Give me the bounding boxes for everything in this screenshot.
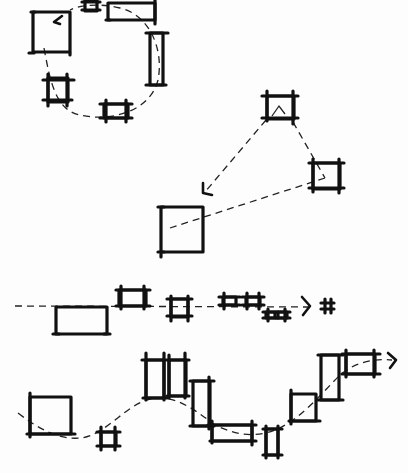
frame bbox=[29, 12, 70, 55]
circular-sequence bbox=[29, 0, 168, 122]
frame bbox=[53, 307, 110, 334]
frame bbox=[97, 427, 120, 450]
triangle-dashed-path-a bbox=[205, 120, 266, 192]
frame bbox=[208, 421, 256, 445]
frame bbox=[321, 299, 334, 313]
frame bbox=[100, 100, 132, 122]
triangular-sequence bbox=[158, 91, 344, 257]
wave-sequence bbox=[18, 350, 396, 458]
frame bbox=[167, 353, 189, 398]
triangle-dashed-path-c bbox=[170, 178, 325, 228]
sketch-canvas bbox=[0, 0, 408, 473]
frame bbox=[146, 33, 168, 85]
frame bbox=[27, 393, 75, 437]
frame bbox=[116, 286, 150, 309]
frame bbox=[318, 355, 343, 400]
arrowhead-icon bbox=[302, 297, 310, 315]
frame bbox=[219, 293, 240, 309]
triangle-dashed-path-b bbox=[293, 122, 325, 178]
arrowhead-icon bbox=[54, 16, 62, 24]
frame bbox=[43, 74, 74, 106]
frame bbox=[158, 207, 203, 257]
frame bbox=[242, 293, 264, 309]
frame bbox=[276, 309, 290, 321]
sketch-drawing bbox=[0, 0, 408, 473]
frame bbox=[342, 350, 380, 377]
triangle-mark-icon bbox=[272, 106, 285, 116]
arrowhead-icon bbox=[388, 353, 396, 368]
frame bbox=[309, 159, 344, 193]
linear-sequence bbox=[15, 286, 334, 334]
frame bbox=[167, 296, 192, 321]
